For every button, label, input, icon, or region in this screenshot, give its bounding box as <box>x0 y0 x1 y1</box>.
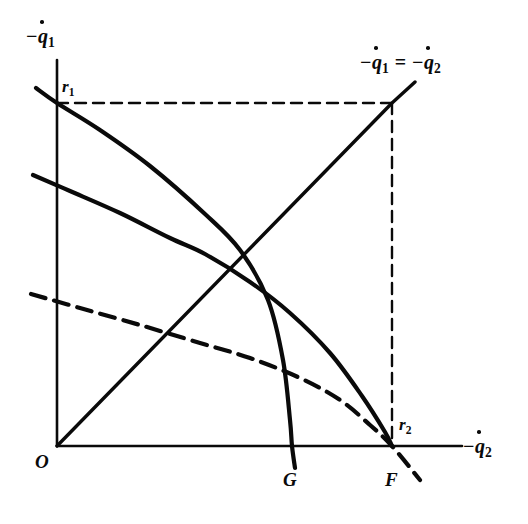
diagonal-q-letter-1: q <box>372 51 382 73</box>
y-axis-label: −q1 <box>26 26 55 50</box>
diagram-svg <box>0 0 528 524</box>
point-label-origin: O <box>35 452 49 471</box>
x-axis-dot-accent-icon <box>477 430 481 434</box>
point-label-f: F <box>385 470 398 489</box>
diagonal-q-symbol-1: q <box>372 52 382 72</box>
diagonal-ray-label: −q1=−q2 <box>360 52 441 76</box>
diagonal-dot-accent-icon-2 <box>426 46 430 50</box>
diagonal-subscript-2: 2 <box>434 61 441 76</box>
y-axis-q-symbol: q <box>38 26 48 46</box>
point-label-r1: r1 <box>62 78 74 98</box>
x-axis-q-symbol: q <box>475 436 485 456</box>
y-axis-q-letter: q <box>38 25 48 47</box>
x-axis-minus-sign: − <box>463 435 474 457</box>
diagonal-minus-sign-2: − <box>412 51 423 73</box>
x-axis-label: −q2 <box>463 436 492 460</box>
diagonal-q-symbol-2: q <box>424 52 434 72</box>
r2-subscript: 2 <box>406 424 412 437</box>
diagonal-minus-sign-1: − <box>360 51 371 73</box>
diagram-canvas: −q1 −q2 −q1=−q2 r1 r2 O G F <box>0 0 528 524</box>
r2-letter: r <box>399 415 406 434</box>
x-axis-subscript: 2 <box>485 445 492 460</box>
diagonal-dot-accent-icon-1 <box>374 46 378 50</box>
r1-letter: r <box>62 77 69 96</box>
curve-curve-r1-G <box>36 88 295 468</box>
y-axis-subscript: 1 <box>48 35 55 50</box>
diagonal-subscript-1: 1 <box>382 61 389 76</box>
y-axis-dot-accent-icon <box>40 20 44 24</box>
y-axis-minus-sign: − <box>26 25 37 47</box>
point-label-g: G <box>283 470 297 489</box>
x-axis-q-letter: q <box>475 435 485 457</box>
point-label-r2: r2 <box>399 416 411 436</box>
r1-subscript: 1 <box>69 86 75 99</box>
diagonal-q-letter-2: q <box>424 51 434 73</box>
diagonal-equals-sign: = <box>395 51 406 73</box>
curve-dashed-curve-to-F <box>31 294 420 480</box>
